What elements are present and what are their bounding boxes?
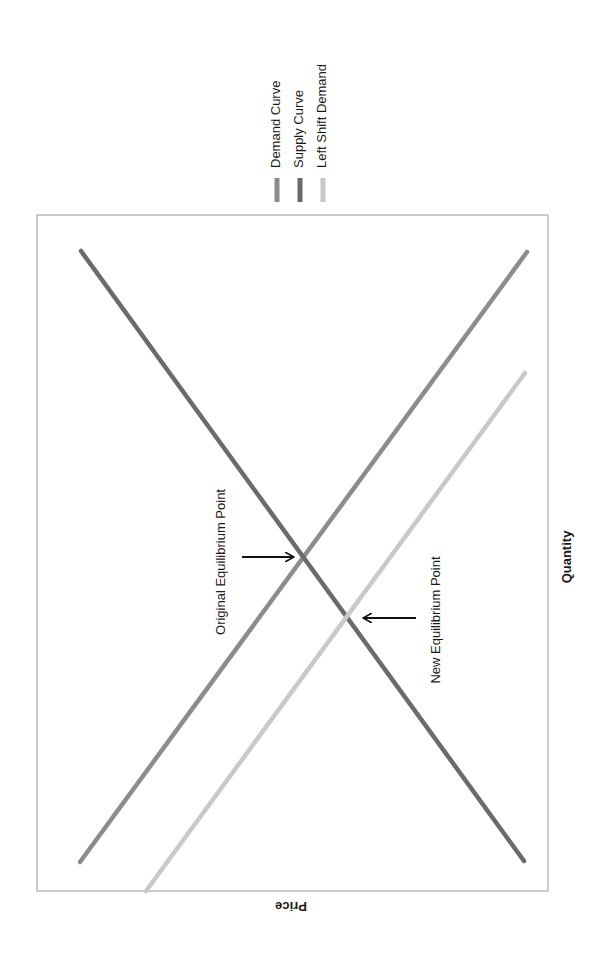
series-lines: [80, 251, 527, 891]
x-axis-label: Quantity: [559, 530, 574, 583]
original-equilibrium-point-label: Original Equilibrium Point: [213, 489, 228, 635]
new-equilibrium-point-label: New Equilibrium Point: [428, 556, 443, 684]
supply-demand-chart: Original Equilibrium PointNew Equilibriu…: [0, 0, 604, 958]
annotations: Original Equilibrium PointNew Equilibriu…: [213, 489, 443, 684]
legend-label-left-shift-demand: Left Shift Demand: [314, 64, 329, 168]
legend: Demand CurveSupply CurveLeft Shift Deman…: [268, 64, 329, 202]
left-shift-demand-line: [146, 373, 525, 891]
legend-label-demand-curve: Demand Curve: [268, 81, 283, 168]
y-axis-label: Price: [275, 899, 307, 914]
legend-label-supply-curve: Supply Curve: [291, 90, 306, 168]
